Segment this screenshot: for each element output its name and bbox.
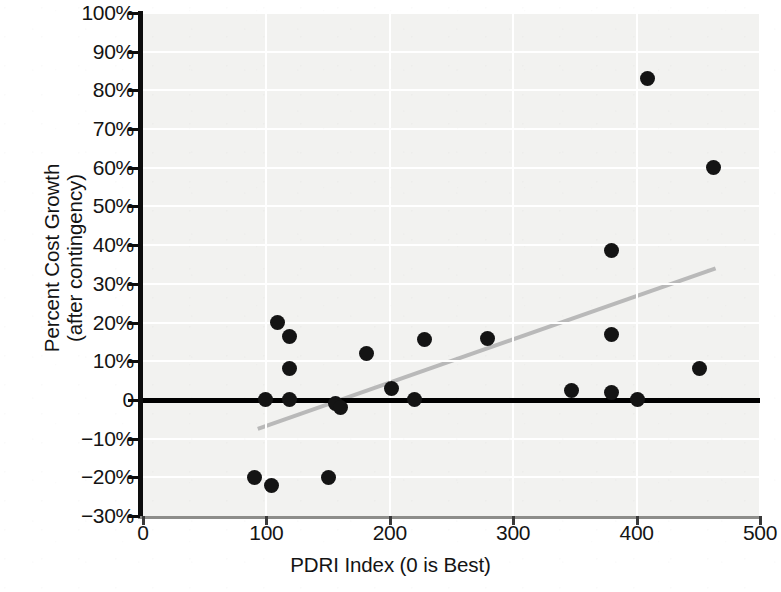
y-tick-mark xyxy=(128,515,140,518)
y-tick-mark xyxy=(128,89,140,92)
y-tick-mark xyxy=(128,205,140,208)
x-tick-mark xyxy=(389,516,392,525)
scatter-chart: Percent Cost Growth (after contingency) … xyxy=(0,0,781,592)
x-axis-title: PDRI Index (0 is Best) xyxy=(0,553,781,577)
x-tick-label: 500 xyxy=(715,522,781,544)
x-tick-label: 400 xyxy=(592,522,682,544)
y-tick-mark xyxy=(128,399,140,402)
x-axis-tick-labels: 0100200300400500 xyxy=(0,0,781,592)
x-tick-mark xyxy=(265,516,268,525)
y-tick-mark xyxy=(128,476,140,479)
x-tick-label: 300 xyxy=(468,522,558,544)
x-tick-label: 0 xyxy=(98,522,188,544)
y-tick-mark xyxy=(128,128,140,131)
x-tick-label: 200 xyxy=(345,522,435,544)
y-tick-mark xyxy=(128,438,140,441)
y-tick-mark xyxy=(128,360,140,363)
y-tick-mark xyxy=(128,244,140,247)
x-tick-mark xyxy=(759,516,762,525)
y-tick-mark xyxy=(128,12,140,15)
x-tick-label: 100 xyxy=(221,522,311,544)
y-tick-mark xyxy=(128,322,140,325)
y-tick-mark xyxy=(128,167,140,170)
x-tick-mark xyxy=(512,516,515,525)
x-tick-mark xyxy=(142,516,145,525)
y-tick-mark xyxy=(128,283,140,286)
y-tick-mark xyxy=(128,51,140,54)
x-tick-mark xyxy=(636,516,639,525)
